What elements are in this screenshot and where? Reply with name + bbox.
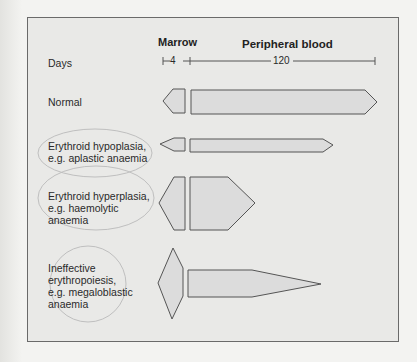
- hypoplasia-shapes: [160, 138, 333, 152]
- days-scale: [163, 57, 375, 65]
- row-ineffective-label-3: e.g. megaloblastic: [48, 286, 133, 298]
- row-hyperplasia-label-1: Erythroid hyperplasia,: [48, 190, 150, 202]
- row-hyperplasia-label-3: anaemia: [48, 214, 88, 226]
- row-normal-label: Normal: [48, 96, 82, 108]
- marrow-days: 4: [170, 55, 176, 67]
- row-hypoplasia-label-1: Erythroid hypoplasia,: [48, 140, 146, 152]
- row-ineffective-label-1: Ineffective: [48, 262, 96, 274]
- hyperplasia-shapes: [159, 177, 255, 230]
- ineffective-shapes: [158, 248, 321, 319]
- row-hyperplasia-label-2: e.g. haemolytic: [48, 202, 119, 214]
- blood-days: 120: [273, 55, 290, 67]
- row-ineffective-label-2: erythropoiesis,: [48, 274, 116, 286]
- row-ineffective-label-4: anaemia: [48, 298, 88, 310]
- normal-shapes: [163, 89, 377, 114]
- row-hypoplasia-label-2: e.g. aplastic anaemia: [48, 152, 147, 164]
